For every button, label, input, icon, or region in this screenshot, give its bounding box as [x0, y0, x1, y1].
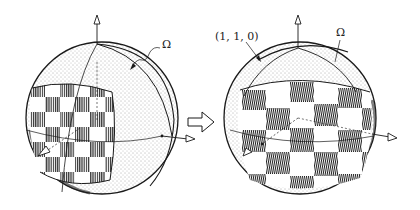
transition-arrow [188, 112, 214, 132]
right-checker-patch [230, 70, 382, 200]
omega-label-right: Ω [336, 26, 345, 39]
up-arrow-icon [94, 15, 100, 24]
omega-label-left: Ω [162, 38, 171, 51]
hollow-right-arrow-icon [188, 112, 214, 132]
left-sphere: Ω [20, 15, 195, 195]
sphere-mapping-diagram: Ω [0, 0, 420, 210]
right-sphere: (1, 1, 0) Ω [215, 15, 397, 200]
up-arrow-icon [295, 15, 301, 24]
right-arrow-icon [388, 133, 397, 141]
right-arrow-icon [186, 135, 195, 142]
point-label: (1, 1, 0) [215, 30, 259, 43]
